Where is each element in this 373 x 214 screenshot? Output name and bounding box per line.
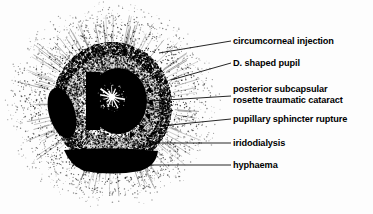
callout-text: D. shaped pupil bbox=[233, 58, 300, 68]
callout-hyphaema: hyphaema bbox=[233, 160, 278, 171]
callout-text: pupillary sphincter rupture bbox=[233, 114, 347, 124]
callout-circumcorneal-injection: circumcorneal injection bbox=[233, 36, 334, 47]
callout-label-layer: circumcorneal injection D. shaped pupil … bbox=[0, 0, 373, 214]
callout-iridodialysis: iridodialysis bbox=[233, 138, 285, 149]
callout-text: circumcorneal injection bbox=[233, 36, 334, 46]
callout-text: iridodialysis bbox=[233, 138, 285, 148]
callout-pupillary-sphincter-rupture: pupillary sphincter rupture bbox=[233, 114, 347, 125]
callout-posterior-subcapsular-cataract: posterior subcapsular rosette traumatic … bbox=[233, 84, 343, 106]
callout-d-shaped-pupil: D. shaped pupil bbox=[233, 58, 300, 69]
figure-root: circumcorneal injection D. shaped pupil … bbox=[0, 0, 373, 214]
callout-text-line2: rosette traumatic cataract bbox=[233, 95, 343, 106]
callout-text: hyphaema bbox=[233, 160, 278, 170]
callout-text: posterior subcapsular bbox=[233, 84, 327, 94]
